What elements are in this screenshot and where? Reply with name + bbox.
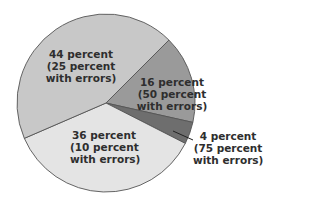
label-16-percent: 16 percent (50 percent with errors) (131, 76, 213, 112)
label-36-percent: 36 percent (10 percent with errors) (70, 129, 138, 165)
label-44-percent: 44 percent (25 percent with errors) (38, 48, 124, 84)
label-4-percent: 4 percent (75 percent with errors) (193, 130, 263, 166)
